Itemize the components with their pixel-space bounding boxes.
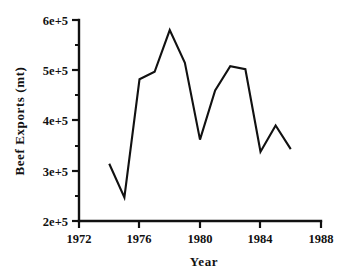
y-tick-label-200000: 2e+5 xyxy=(43,215,68,229)
y-tick-label-400000: 4e+5 xyxy=(43,114,68,128)
x-axis-title: Year xyxy=(190,254,218,269)
y-tick-label-300000: 3e+5 xyxy=(43,165,68,179)
axis-lines xyxy=(79,20,321,221)
y-tick-label-600000: 6e+5 xyxy=(43,14,68,28)
x-tick-label-1972: 1972 xyxy=(67,232,92,246)
y-axis-tick-labels: 6e+5 5e+5 4e+5 3e+5 2e+5 xyxy=(43,14,68,229)
data-series-line xyxy=(109,30,291,197)
x-axis-tick-labels: 1972 1976 1980 1984 1988 xyxy=(67,232,334,246)
x-tick-label-1984: 1984 xyxy=(248,232,274,246)
y-tick-label-500000: 5e+5 xyxy=(43,64,68,78)
x-tick-label-1976: 1976 xyxy=(127,232,152,246)
line-chart-plot: 6e+5 5e+5 4e+5 3e+5 2e+5 1972 1976 1980 … xyxy=(0,0,344,279)
y-axis-title: Beef Exports (mt) xyxy=(12,66,27,175)
x-tick-label-1980: 1980 xyxy=(188,232,213,246)
chart-container: 6e+5 5e+5 4e+5 3e+5 2e+5 1972 1976 1980 … xyxy=(0,0,344,279)
x-tick-label-1988: 1988 xyxy=(309,232,334,246)
